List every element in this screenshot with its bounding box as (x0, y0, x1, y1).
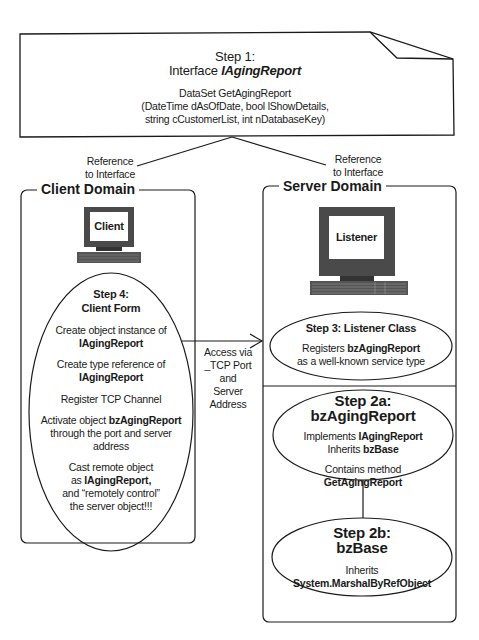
step4-item-1-text: Create object instance of (36, 324, 186, 337)
interface-step: Step 1: (120, 50, 350, 64)
access-line3: Server (197, 385, 259, 398)
client-computer-icon (77, 207, 141, 263)
step2a-line3: Contains method (278, 463, 448, 476)
reference-left-line2: to Interface (70, 168, 150, 181)
signature-line-3: string cCustomerList, int nDatabaseKey) (100, 113, 370, 126)
step4-item-2-text: Create type reference of (36, 358, 186, 371)
step4-item-4: Activate object bzAgingReport through th… (36, 414, 186, 453)
step2b-content: Step 2b: bzBase Inherits System.MarshalB… (277, 525, 447, 590)
step2a-content: Step 2a: bzAgingReport Implements IAging… (278, 393, 448, 489)
step4-title: Step 4: (36, 287, 186, 301)
step2a-line1-bold: IAgingReport (358, 430, 422, 442)
step3-line1-text: Registers (302, 342, 347, 354)
step2b-line2-bold: System.MarshalByRefObject (293, 577, 431, 589)
interface-name: IAgingReport (221, 63, 301, 78)
reference-left-line1: Reference (70, 155, 150, 168)
step3-line1-bold: bzAgingReport (347, 342, 420, 354)
step4-item-2: Create type reference of IAgingReport (36, 358, 186, 384)
access-line4: Address (197, 398, 259, 411)
step4-item-4-line3: address (36, 440, 186, 453)
step3-title: Step 3: Listener Class (275, 321, 447, 335)
step4-item-5-line3: and “remotely control” (36, 487, 186, 500)
step4-item-1-bold: IAgingReport (79, 337, 143, 349)
access-label: Access via _TCP Port and Server Address (197, 346, 259, 411)
interface-signature: DataSet GetAgingReport (DateTime dAsOfDa… (100, 87, 370, 126)
step4-content: Step 4: Client Form Create object instan… (36, 287, 186, 513)
server-domain-label: Server Domain (279, 178, 386, 194)
listener-computer-icon (310, 207, 408, 295)
step4-item-1: Create object instance of IAgingReport (36, 324, 186, 350)
step4-item-5: Cast remote object as IAgingReport, and … (36, 461, 186, 513)
step4-item-4-bold: bzAgingReport (109, 414, 182, 426)
access-line2: _TCP Port and (197, 359, 259, 385)
reference-label-right: Reference to Interface (318, 153, 398, 179)
step2a-line1-text: Implements (303, 430, 358, 442)
step4-item-5-bold: IAgingReport, (84, 474, 151, 486)
step3-line2: as a well-known service type (275, 355, 447, 368)
client-screen-label: Client (90, 220, 128, 232)
step4-item-2-bold: IAgingReport (79, 371, 143, 383)
step2b-line1: Inherits (277, 564, 447, 577)
reference-label-left: Reference to Interface (70, 155, 150, 181)
step2a-line2-text: Inherits (327, 443, 363, 455)
reference-line-right (232, 137, 326, 165)
step4-item-3: Register TCP Channel (36, 393, 186, 406)
signature-line-2: (DateTime dAsOfDate, bool lShowDetails, (100, 100, 370, 113)
step2a-subtitle: bzAgingReport (278, 408, 448, 423)
interface-title-prefix: Interface (169, 63, 221, 78)
step4-item-5-line4: the server object!!! (36, 500, 186, 513)
step2b-subtitle: bzBase (277, 540, 447, 555)
step4-subtitle: Client Form (36, 301, 186, 315)
listener-screen-label: Listener (329, 231, 384, 243)
reference-right-line1: Reference (318, 153, 398, 166)
step4-item-5-text: Cast remote object (36, 461, 186, 474)
interface-title: Interface IAgingReport (120, 64, 350, 78)
reference-line-left (137, 137, 232, 166)
step2a-line4-bold: GetAgingReport (324, 476, 402, 488)
signature-line-1: DataSet GetAgingReport (100, 87, 370, 100)
interface-heading: Step 1: Interface IAgingReport (120, 50, 350, 78)
access-line1: Access via (197, 346, 259, 359)
step4-item-4-line2: through the port and server (36, 427, 186, 440)
step4-item-3-text: Register TCP Channel (36, 393, 186, 406)
step2a-line2-bold: bzBase (363, 443, 399, 455)
step4-item-5-pre: as (71, 474, 84, 486)
step4-item-4-text: Activate object (41, 414, 109, 426)
client-domain-label: Client Domain (37, 181, 139, 197)
step2a-title: Step 2a: (278, 393, 448, 408)
step2b-title: Step 2b: (277, 525, 447, 540)
step3-content: Step 3: Listener Class Registers bzAging… (275, 321, 447, 368)
